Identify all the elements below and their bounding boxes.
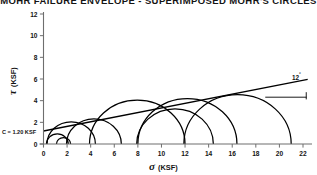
y-axis-title: τ (KSF) — [6, 67, 18, 95]
cohesion-label: C = 1.20 KSF — [2, 129, 37, 135]
y-tick-label: 12 — [30, 11, 38, 18]
x-tick-label: 16 — [229, 150, 237, 157]
x-tick-label: 2 — [65, 150, 69, 157]
y-tick-label: 2 — [34, 119, 38, 126]
y-tick-label: 8 — [34, 54, 38, 61]
x-tick-label: 22 — [299, 150, 307, 157]
mohr-circle — [138, 99, 237, 145]
x-tick-label: 18 — [252, 150, 260, 157]
y-axis-tick-labels: 024681012 — [30, 11, 38, 148]
mohr-circle — [46, 134, 68, 144]
degree-symbol-icon: ° — [299, 72, 301, 77]
y-axis-unit: (KSF) — [9, 67, 18, 87]
friction-angle-label-group: 12 ° — [292, 72, 301, 81]
chart-title-strip: MOHR FAILURE ENVELOPE - SUPERIMPOSED MOH… — [0, 0, 317, 7]
x-tick-label: 12 — [181, 150, 189, 157]
y-tick-label: 0 — [34, 141, 38, 148]
x-tick-label: 4 — [89, 150, 93, 157]
y-tick-label: 6 — [34, 76, 38, 83]
friction-angle-indicator — [265, 92, 306, 99]
mohr-circles-group — [46, 95, 291, 144]
mohr-circle — [184, 95, 291, 144]
x-axis-symbol: σ — [149, 160, 156, 172]
y-tick-label: 4 — [34, 97, 38, 104]
chart-title: MOHR FAILURE ENVELOPE - SUPERIMPOSED MOH… — [0, 0, 317, 6]
x-tick-label: 6 — [112, 150, 116, 157]
x-axis-tick-labels: 0246810121416182022 — [42, 150, 307, 157]
x-axis-unit: (KSF) — [158, 163, 178, 172]
x-axis-title: σ (KSF) — [149, 160, 178, 172]
plot-canvas: 0246810121416182022 024681012 C = 1.20 K… — [0, 0, 317, 175]
y-axis-symbol: τ — [6, 89, 18, 95]
mohr-circle — [137, 109, 214, 144]
x-tick-label: 8 — [136, 150, 140, 157]
axes-group: 0246810121416182022 024681012 — [30, 11, 312, 157]
x-tick-label: 0 — [42, 150, 46, 157]
failure-envelope-line — [44, 79, 308, 131]
x-tick-label: 20 — [276, 150, 284, 157]
mohr-circle-figure: MOHR FAILURE ENVELOPE - SUPERIMPOSED MOH… — [0, 0, 317, 175]
x-tick-label: 14 — [205, 150, 213, 157]
x-tick-label: 10 — [158, 150, 166, 157]
y-tick-label: 10 — [30, 32, 38, 39]
